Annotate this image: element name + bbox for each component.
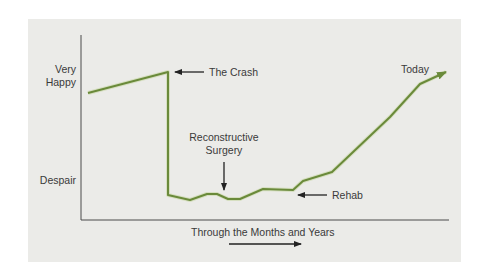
annotation-reconstructive-surgery: Reconstructive Surgery (174, 131, 274, 157)
annotation-rehab: Rehab (332, 189, 363, 202)
x-axis-label: Through the Months and Years (191, 226, 335, 239)
y-label-despair: Despair (16, 174, 76, 187)
annotation-the-crash: The Crash (209, 66, 258, 79)
y-label-very: Very (16, 63, 76, 76)
y-label-very-happy: Very Happy (16, 63, 76, 89)
annotation-today: Today (401, 63, 429, 76)
annotation-surgery-line1: Reconstructive (174, 131, 274, 144)
y-label-happy: Happy (16, 76, 76, 89)
annotation-surgery-line2: Surgery (174, 144, 274, 157)
